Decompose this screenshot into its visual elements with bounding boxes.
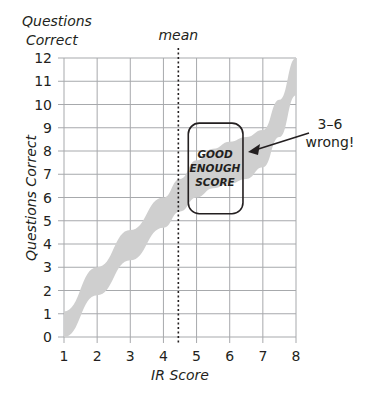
x-tick-label: 2 (93, 348, 102, 364)
y-tick-label: 10 (34, 97, 52, 113)
y-axis-title: Questions Correct (23, 134, 39, 261)
y-tick-label: 12 (34, 50, 52, 66)
x-tick-label: 4 (159, 348, 168, 364)
y-tick-label: 7 (43, 166, 52, 182)
x-axis-title: IR Score (151, 367, 209, 383)
box-label-line1: GOOD (197, 148, 232, 160)
arrow-label-line1: 3–6 (318, 116, 343, 132)
y-tick-label: 0 (43, 329, 52, 345)
y-tick-label: 2 (43, 283, 52, 299)
y-tick-label: 1 (43, 306, 52, 322)
chart: mean 0123456789101112 12345678 Questions… (0, 0, 369, 406)
x-tick-labels: 12345678 (60, 348, 301, 364)
y-tick-label: 11 (34, 73, 52, 89)
box-label-line3: SCORE (195, 176, 235, 188)
x-tick-label: 5 (192, 348, 201, 364)
y-axis-title-top-line1: Questions (22, 13, 92, 29)
x-tick-label: 3 (126, 348, 135, 364)
box-label-line2: ENOUGH (190, 162, 241, 174)
mean-label: mean (158, 27, 198, 43)
y-tick-label: 8 (43, 143, 52, 159)
x-tick-label: 6 (225, 348, 234, 364)
arrow-label-line2: wrong! (306, 134, 355, 150)
y-tick-label: 4 (43, 236, 52, 252)
x-tick-label: 8 (292, 348, 301, 364)
y-tick-label: 5 (43, 213, 52, 229)
y-axis-title-top-line2: Correct (26, 32, 78, 48)
y-tick-label: 3 (43, 259, 52, 275)
y-tick-label: 9 (43, 120, 52, 136)
x-tick-label: 1 (60, 348, 69, 364)
y-tick-label: 6 (43, 190, 52, 206)
x-tick-label: 7 (258, 348, 267, 364)
